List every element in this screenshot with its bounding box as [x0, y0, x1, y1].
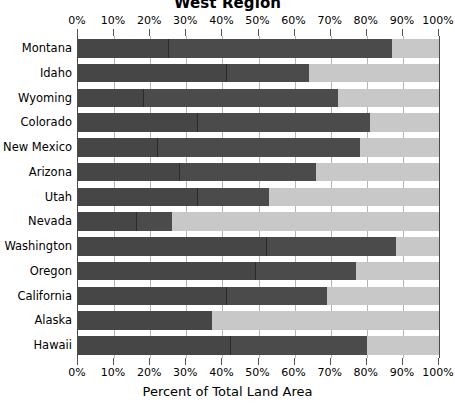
bar-segment-divider — [136, 212, 137, 231]
bar-track — [78, 138, 439, 157]
bar-segment-3 — [309, 64, 439, 83]
y-axis-label-utah: Utah — [0, 185, 72, 210]
bar-segment-3 — [316, 163, 439, 182]
bar-track — [78, 163, 439, 182]
bar-segment-2 — [230, 336, 367, 355]
chart-title: West Region — [0, 0, 455, 12]
axis-tick-label: 20% — [137, 366, 161, 380]
axis-tick-mark — [149, 29, 150, 36]
axis-tick-label: 0% — [68, 14, 85, 28]
bar-segment-3 — [338, 89, 439, 108]
axis-tick-label: 0% — [68, 366, 85, 380]
axis-tick-label: 60% — [281, 14, 305, 28]
bar-segment-3 — [370, 113, 439, 132]
bar-segment-divider — [143, 89, 144, 108]
axis-tick-mark — [113, 29, 114, 36]
bar-track — [78, 212, 439, 231]
axis-tick-label: 40% — [209, 366, 233, 380]
bar-row[interactable] — [78, 234, 439, 259]
x-axis-title: Percent of Total Land Area — [0, 384, 455, 399]
top-axis-tick-labels: 0%10%20%30%40%50%60%70%80%90%100% — [0, 14, 455, 28]
bar-segment-3 — [269, 188, 439, 207]
bar-track — [78, 262, 439, 281]
bar-segment-2 — [136, 212, 172, 231]
axis-tick-mark — [330, 29, 331, 36]
bar-row[interactable] — [78, 160, 439, 185]
bar-segment-1 — [78, 287, 226, 306]
bar-row[interactable] — [78, 308, 439, 333]
bar-segment-divider — [179, 163, 180, 182]
y-axis-label-wyoming: Wyoming — [0, 86, 72, 111]
bar-segment-divider — [168, 39, 169, 58]
axis-tick-mark — [221, 358, 222, 365]
bar-row[interactable] — [78, 209, 439, 234]
y-axis-label-hawaii: Hawaii — [0, 333, 72, 358]
bar-segment-2 — [157, 138, 359, 157]
y-axis-category-labels: MontanaIdahoWyomingColoradoNew MexicoAri… — [0, 36, 72, 358]
bottom-axis-tick-labels: 0%10%20%30%40%50%60%70%80%90%100% — [0, 366, 455, 380]
bar-track — [78, 336, 439, 355]
bar-segment-1 — [78, 262, 255, 281]
bar-segment-3 — [212, 311, 439, 330]
bar-track — [78, 237, 439, 256]
bar-segment-2 — [143, 89, 338, 108]
axis-tick-mark — [185, 358, 186, 365]
axis-tick-mark — [77, 29, 78, 36]
bar-segment-2 — [197, 188, 269, 207]
bar-row[interactable] — [78, 110, 439, 135]
y-axis-label-idaho: Idaho — [0, 61, 72, 86]
bar-segment-divider — [197, 188, 198, 207]
bar-segment-3 — [327, 287, 439, 306]
axis-tick-label: 30% — [173, 366, 197, 380]
axis-tick-label: 90% — [390, 366, 414, 380]
y-axis-label-colorado: Colorado — [0, 110, 72, 135]
bar-segment-divider — [197, 113, 198, 132]
y-axis-label-new-mexico: New Mexico — [0, 135, 72, 160]
axis-tick-label: 30% — [173, 14, 197, 28]
bar-segment-3 — [396, 237, 439, 256]
bar-segment-1 — [78, 138, 157, 157]
axis-tick-label: 50% — [245, 366, 269, 380]
bar-segment-1 — [78, 188, 197, 207]
bar-track — [78, 188, 439, 207]
bar-row[interactable] — [78, 284, 439, 309]
bar-segment-1 — [78, 163, 179, 182]
bar-row[interactable] — [78, 61, 439, 86]
bar-segment-2 — [266, 237, 396, 256]
bar-segment-divider — [226, 64, 227, 83]
bar-segment-2 — [226, 287, 327, 306]
bar-segment-1 — [78, 237, 266, 256]
bar-track — [78, 39, 439, 58]
top-axis-tick-marks — [0, 29, 455, 36]
bar-track — [78, 311, 439, 330]
axis-tick-label: 70% — [317, 366, 341, 380]
axis-tick-mark — [402, 29, 403, 36]
axis-tick-label: 60% — [281, 366, 305, 380]
bar-row[interactable] — [78, 333, 439, 358]
axis-tick-mark — [185, 29, 186, 36]
bar-row[interactable] — [78, 36, 439, 61]
y-axis-label-california: California — [0, 284, 72, 309]
axis-tick-mark — [258, 29, 259, 36]
axis-tick-mark — [330, 358, 331, 365]
axis-tick-label: 10% — [101, 366, 125, 380]
bar-row[interactable] — [78, 86, 439, 111]
chart-container: West Region 0%10%20%30%40%50%60%70%80%90… — [0, 0, 455, 407]
y-axis-label-montana: Montana — [0, 36, 72, 61]
axis-tick-label: 40% — [209, 14, 233, 28]
bar-row[interactable] — [78, 185, 439, 210]
bar-row[interactable] — [78, 135, 439, 160]
axis-tick-label: 80% — [354, 366, 378, 380]
axis-tick-mark — [77, 358, 78, 365]
bar-segment-2 — [226, 64, 309, 83]
bar-segment-2 — [197, 113, 370, 132]
bar-segment-1 — [78, 89, 143, 108]
y-axis-label-nevada: Nevada — [0, 209, 72, 234]
bar-row[interactable] — [78, 259, 439, 284]
axis-tick-mark — [438, 358, 439, 365]
bar-track — [78, 89, 439, 108]
bar-segment-3 — [367, 336, 439, 355]
axis-tick-label: 90% — [390, 14, 414, 28]
axis-tick-label: 100% — [422, 366, 453, 380]
y-axis-label-oregon: Oregon — [0, 259, 72, 284]
